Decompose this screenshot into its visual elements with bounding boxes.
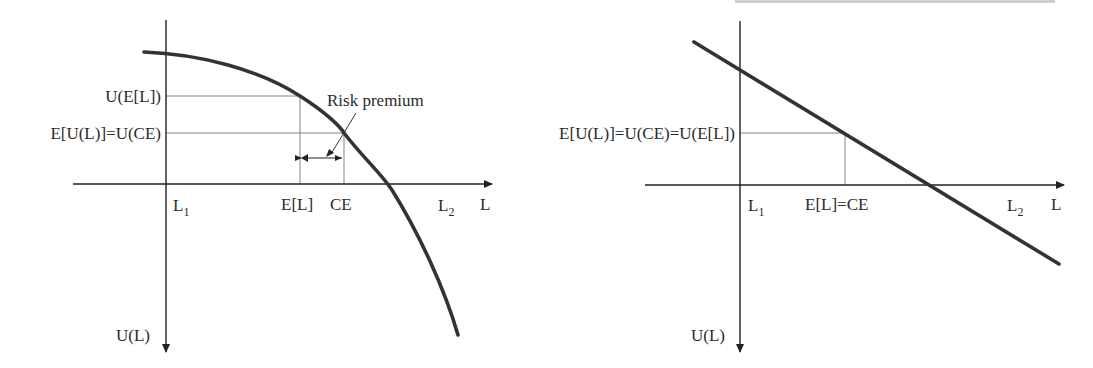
risk-premium-arrow-left-head <box>301 154 308 162</box>
right-chart: E[U(L)]=U(CE)=U(E[L]) L1 E[L]=CE L2 L U(… <box>559 21 1064 352</box>
label-l2: L2 <box>1007 196 1023 219</box>
label-l1: L1 <box>173 196 189 219</box>
label-l2: L2 <box>438 196 454 219</box>
label-risk-premium: Risk premium <box>327 91 424 110</box>
label-ce: CE <box>330 195 352 214</box>
cut-off-header-text <box>735 0 1055 3</box>
label-l1: L1 <box>748 196 764 219</box>
label-y-axis: U(L) <box>691 326 725 345</box>
label-y-axis: U(L) <box>116 326 150 345</box>
risk-premium-figure: U(E[L]) E[U(L)]=U(CE) Risk premium L1 E[… <box>0 0 1093 368</box>
diagram-canvas: U(E[L]) E[U(L)]=U(CE) Risk premium L1 E[… <box>0 0 1093 368</box>
label-u-el: U(E[L]) <box>105 87 161 106</box>
label-eu-uce-uel: E[U(L)]=U(CE)=U(E[L]) <box>559 124 735 143</box>
label-eu-uce: E[U(L)]=U(CE) <box>50 124 161 143</box>
label-l-axis: L <box>1051 195 1061 214</box>
utility-line <box>694 42 1059 264</box>
label-l-axis: L <box>480 195 490 214</box>
label-el-ce: E[L]=CE <box>805 195 868 214</box>
left-chart: U(E[L]) E[U(L)]=U(CE) Risk premium L1 E[… <box>50 20 492 352</box>
risk-premium-leader <box>331 113 356 154</box>
label-el: E[L] <box>281 195 313 214</box>
